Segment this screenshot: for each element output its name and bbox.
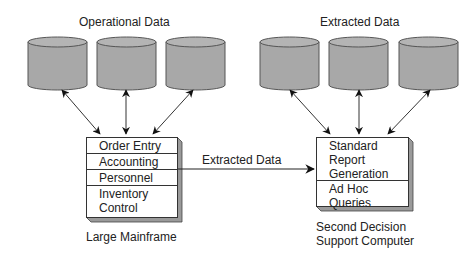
extracted-data-title: Extracted Data [320, 15, 399, 29]
operational-data-title: Operational Data [79, 15, 170, 29]
arrow-op-1 [62, 90, 100, 134]
database-cylinder-ex-2 [329, 37, 388, 90]
database-cylinder-ex-3 [399, 37, 458, 90]
module-accounting: Accounting [87, 154, 177, 170]
mainframe-box: Order Entry Accounting Personnel Invento… [86, 137, 178, 218]
database-cylinder-op-2 [97, 37, 156, 90]
arrow-op-3 [153, 90, 193, 134]
diagram-canvas [0, 0, 476, 254]
database-cylinder-op-1 [28, 37, 87, 90]
database-cylinder-op-3 [166, 37, 225, 90]
module-inventory-control: Inventory Control [87, 186, 177, 217]
module-personnel: Personnel [87, 170, 177, 186]
database-cylinder-ex-1 [260, 37, 319, 90]
connector-label: Extracted Data [202, 153, 281, 167]
dss-label-line1: Second Decision [316, 220, 406, 234]
arrow-ex-3 [388, 90, 430, 134]
module-standard-report-generation: Standard Report Generation [317, 138, 408, 181]
module-ad-hoc-queries: Ad Hoc Queries [317, 181, 408, 207]
arrow-ex-1 [290, 90, 330, 134]
dss-label-line2: Support Computer [316, 234, 414, 248]
mainframe-label: Large Mainframe [86, 230, 177, 244]
dss-box: Standard Report Generation Ad Hoc Querie… [316, 137, 409, 207]
module-order-entry: Order Entry [87, 138, 177, 154]
